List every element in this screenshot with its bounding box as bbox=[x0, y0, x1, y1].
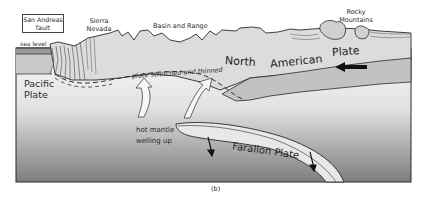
sierra-nevada-label: Sierra Nevada bbox=[84, 17, 114, 33]
north-label: North bbox=[225, 55, 256, 68]
pacific-plate bbox=[16, 48, 52, 74]
basin-and-range-label: Basin and Range bbox=[153, 23, 208, 30]
san-andreas-fault-label: San Andreas fault bbox=[22, 14, 64, 33]
rocky-mountains-label: Rocky Mountains bbox=[336, 8, 376, 24]
hot-mantle-label: hot mantle bbox=[136, 127, 174, 134]
pacific-plate-label: Pacific Plate bbox=[24, 78, 54, 100]
plate-label: Plate bbox=[332, 45, 360, 58]
sea-level-label: sea level bbox=[20, 41, 47, 47]
tectonic-cross-section-diagram: San Andreas fault Sierra Nevada Basin an… bbox=[0, 0, 429, 199]
welling-up-label: welling up bbox=[136, 138, 172, 145]
cross-section-artwork bbox=[0, 0, 429, 199]
figure-caption: (b) bbox=[211, 186, 220, 193]
